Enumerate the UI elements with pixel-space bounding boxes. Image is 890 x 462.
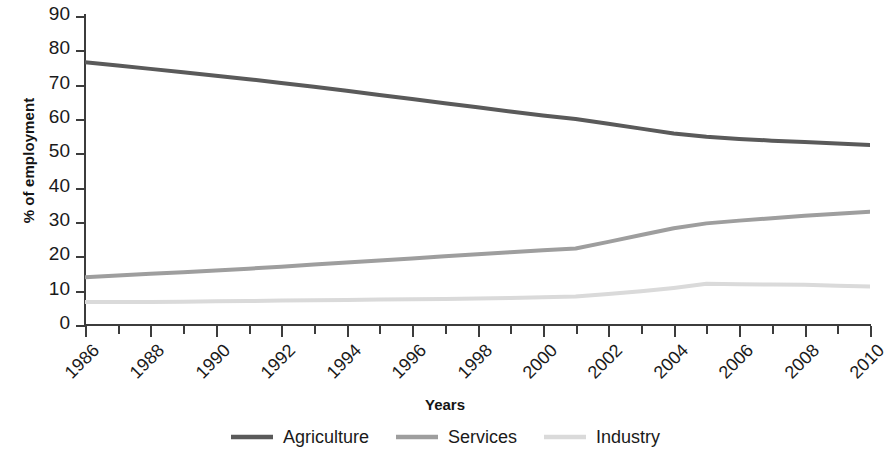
y-tick-mark	[76, 119, 85, 121]
x-tick-label: 2002	[573, 340, 627, 394]
y-tick-mark	[76, 256, 85, 258]
x-tick-label: 1988	[115, 340, 169, 394]
legend-item-services[interactable]: Services	[395, 428, 517, 446]
y-tick-mark	[76, 325, 85, 327]
x-tick-label: 1996	[376, 340, 430, 394]
y-axis-tick-labels: 9080706050403020100	[0, 0, 70, 340]
y-tick-label: 40	[16, 175, 70, 197]
x-tick-label: 1990	[180, 340, 234, 394]
y-tick-label: 70	[16, 72, 70, 94]
y-tick-label: 60	[16, 106, 70, 128]
x-tick-label: 2000	[507, 340, 561, 394]
x-tick-mark-major	[412, 326, 414, 337]
plot-area	[85, 16, 870, 325]
y-tick-mark	[76, 16, 85, 18]
x-tick-mark-minor	[641, 326, 643, 334]
x-tick-mark-minor	[118, 326, 120, 334]
chart-legend: AgricultureServicesIndustry	[0, 428, 890, 446]
y-tick-label: 10	[16, 278, 70, 300]
y-tick-label: 30	[16, 209, 70, 231]
x-tick-label: 1986	[49, 340, 103, 394]
y-tick-mark	[76, 291, 85, 293]
x-tick-label: 2004	[638, 340, 692, 394]
x-tick-label: 2006	[704, 340, 758, 394]
x-tick-mark-minor	[772, 326, 774, 334]
x-axis-title: Years	[0, 396, 890, 413]
y-tick-mark	[76, 85, 85, 87]
y-tick-mark	[76, 222, 85, 224]
x-tick-label: 2008	[769, 340, 823, 394]
y-tick-label: 20	[16, 243, 70, 265]
x-tick-mark-major	[805, 326, 807, 337]
x-tick-mark-minor	[837, 326, 839, 334]
x-tick-mark-minor	[314, 326, 316, 334]
x-tick-mark-minor	[706, 326, 708, 334]
x-tick-mark-major	[347, 326, 349, 337]
legend-swatch-icon	[395, 433, 439, 441]
legend-swatch-icon	[543, 433, 587, 441]
y-tick-mark	[76, 153, 85, 155]
legend-item-agriculture[interactable]: Agriculture	[230, 428, 369, 446]
legend-label: Agriculture	[283, 428, 369, 446]
x-tick-label: 1998	[442, 340, 496, 394]
x-tick-mark-minor	[249, 326, 251, 334]
x-tick-mark-major	[870, 326, 872, 337]
x-tick-mark-minor	[510, 326, 512, 334]
chart-figure: % of employment 9080706050403020100 1986…	[0, 0, 890, 462]
legend-label: Services	[448, 428, 517, 446]
x-tick-label: 1994	[311, 340, 365, 394]
x-tick-mark-minor	[183, 326, 185, 334]
series-lines	[85, 16, 870, 325]
x-tick-mark-minor	[379, 326, 381, 334]
x-tick-mark-major	[216, 326, 218, 337]
y-tick-label: 90	[16, 3, 70, 25]
x-tick-mark-major	[478, 326, 480, 337]
series-line-services	[85, 212, 870, 278]
x-tick-mark-minor	[576, 326, 578, 334]
x-tick-mark-major	[85, 326, 87, 337]
x-tick-label: 1992	[246, 340, 300, 394]
legend-item-industry[interactable]: Industry	[543, 428, 660, 446]
x-tick-label: 2010	[834, 340, 888, 394]
y-tick-label: 80	[16, 37, 70, 59]
x-tick-mark-major	[281, 326, 283, 337]
legend-label: Industry	[596, 428, 660, 446]
y-tick-label: 50	[16, 140, 70, 162]
y-tick-mark	[76, 50, 85, 52]
y-tick-label: 0	[16, 312, 70, 334]
x-tick-mark-major	[608, 326, 610, 337]
x-tick-mark-major	[150, 326, 152, 337]
series-line-agriculture	[85, 62, 870, 145]
x-tick-mark-major	[674, 326, 676, 337]
x-tick-mark-major	[739, 326, 741, 337]
series-line-industry	[85, 284, 870, 302]
x-tick-mark-minor	[445, 326, 447, 334]
y-tick-mark	[76, 188, 85, 190]
legend-swatch-icon	[230, 433, 274, 441]
x-tick-mark-major	[543, 326, 545, 337]
